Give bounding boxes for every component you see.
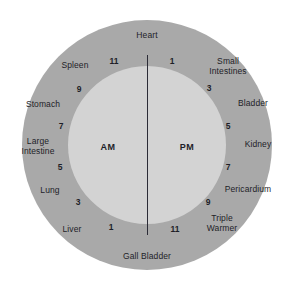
organ-body-clock-diagram: AM PM HeartSmallIntestinesBladderKidneyP…	[0, 0, 294, 290]
organ-label: Stomach	[26, 100, 60, 110]
hour-label-pm-11: 11	[171, 225, 180, 235]
hour-label-pm-5: 5	[226, 122, 231, 132]
hour-label-am-9: 9	[77, 85, 82, 95]
hour-label-am-1: 1	[109, 223, 114, 233]
hour-label-pm-9: 9	[206, 198, 211, 208]
hour-label-pm-7: 7	[226, 163, 231, 173]
organ-label: Spleen	[61, 61, 88, 71]
am-label: AM	[101, 142, 116, 152]
organ-label: Kidney	[245, 140, 272, 150]
organ-label: Gall Bladder	[123, 252, 171, 262]
organ-label: TripleWarmer	[207, 214, 238, 233]
hour-label-pm-3: 3	[207, 84, 212, 94]
am-pm-divider	[147, 55, 148, 235]
pm-label: PM	[180, 142, 194, 152]
hour-label-pm-1: 1	[170, 57, 175, 67]
organ-label: Liver	[63, 225, 82, 235]
organ-label: Heart	[136, 31, 157, 41]
organ-label: Lung	[40, 186, 59, 196]
hour-label-am-5: 5	[58, 163, 63, 173]
organ-label: SmallIntestines	[209, 57, 246, 76]
organ-label: LargeIntestine	[21, 137, 54, 156]
hour-label-am-3: 3	[76, 198, 81, 208]
hour-label-am-11: 11	[110, 57, 119, 67]
organ-label: Pericardium	[225, 185, 271, 195]
hour-label-am-7: 7	[59, 122, 64, 132]
organ-label: Bladder	[238, 99, 268, 109]
